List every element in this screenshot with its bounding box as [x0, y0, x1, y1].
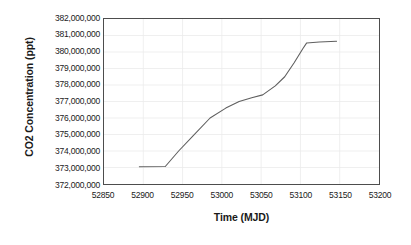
y-tick-label: 382,000,000 — [28, 14, 100, 23]
y-tick-label: 374,000,000 — [28, 147, 100, 156]
y-tick-label: 375,000,000 — [28, 130, 100, 139]
x-tick-label: 53200 — [355, 190, 405, 201]
y-tick-label: 381,000,000 — [28, 30, 100, 39]
x-axis-title: Time (MJD) — [103, 211, 380, 223]
plot-area — [103, 18, 380, 185]
y-tick-label: 376,000,000 — [28, 114, 100, 123]
chart-svg — [104, 19, 379, 184]
data-series-line — [139, 41, 336, 166]
y-tick-label: 379,000,000 — [28, 64, 100, 73]
y-axis-tick-labels: 382,000,000381,000,000380,000,000379,000… — [28, 0, 100, 245]
chart-root: CO2 Concentration (ppt) 382,000,000381,0… — [0, 0, 411, 245]
gridlines — [104, 19, 379, 184]
series-path — [139, 41, 336, 166]
y-tick-label: 380,000,000 — [28, 47, 100, 56]
y-tick-label: 378,000,000 — [28, 80, 100, 89]
y-tick-label: 372,000,000 — [28, 181, 100, 190]
y-tick-label: 373,000,000 — [28, 164, 100, 173]
x-axis-tick-labels: 5285052900529505300053050531005315053200 — [0, 190, 411, 204]
y-tick-label: 377,000,000 — [28, 97, 100, 106]
